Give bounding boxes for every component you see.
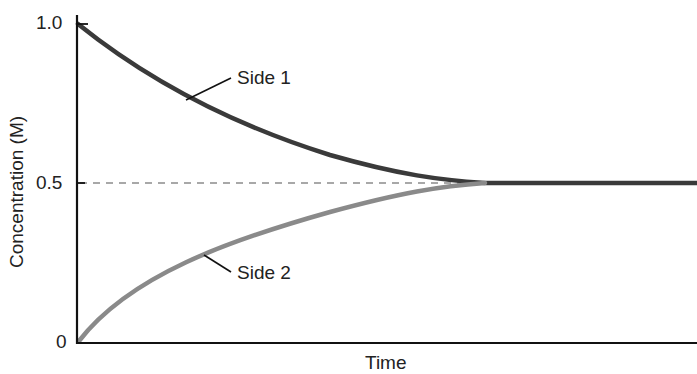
series-side-1-line	[78, 24, 697, 183]
y-tick-label-1: 1.0	[36, 12, 62, 34]
side-1-label: Side 1	[237, 67, 291, 89]
chart-canvas	[0, 0, 697, 374]
side-2-leader-line	[204, 255, 231, 272]
side-2-label: Side 2	[237, 262, 291, 284]
y-axis-label: Concentration (M)	[6, 116, 28, 268]
side-1-leader-line	[186, 78, 231, 100]
y-tick-label-0: 0	[56, 331, 67, 353]
y-tick-label-0-5: 0.5	[36, 172, 62, 194]
x-axis-label: Time	[365, 352, 407, 374]
